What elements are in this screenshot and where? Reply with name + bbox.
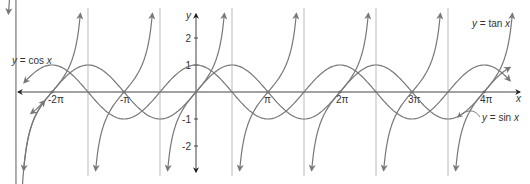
cos-label: y = cos x <box>11 55 53 66</box>
x-tick-label: -2π <box>48 94 64 105</box>
trig-graph: -2π-ππ2π3π4π21-1-2 x y y = cos x y = tan… <box>0 0 530 184</box>
y-tick-label: 2 <box>185 33 191 44</box>
y-tick-label: -2 <box>182 141 191 152</box>
tan-label: y = tan x <box>471 18 511 29</box>
x-axis-label: x <box>515 93 522 104</box>
x-tick-label: 2π <box>336 94 349 105</box>
y-tick-label: -1 <box>182 114 191 125</box>
y-axis-label: y <box>185 10 192 21</box>
x-tick-label: 4π <box>480 94 493 105</box>
sin-label: y = sin x <box>481 112 520 123</box>
y-tick-label: 1 <box>185 60 191 71</box>
